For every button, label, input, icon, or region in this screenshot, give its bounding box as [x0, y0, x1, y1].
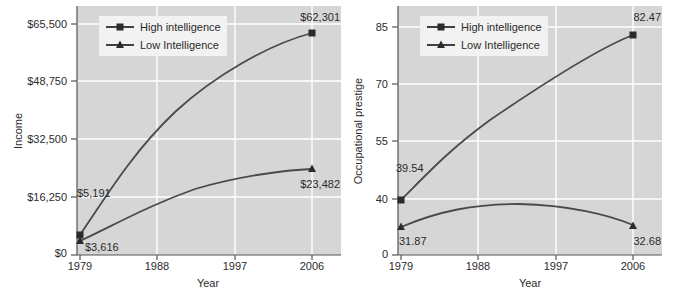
- point-label-high-1979: $5,191: [77, 187, 111, 199]
- chart-panel-prestige: 85 70 55 40 0 1979 1988 1997 2006 Year O…: [344, 0, 688, 290]
- y-tick-label: $65,500: [27, 18, 67, 30]
- x-tick-label: 1979: [389, 260, 413, 272]
- point-label-low-2006: 32.68: [633, 235, 661, 247]
- y-tick-label: 55: [376, 135, 388, 147]
- x-tick-label: 1979: [68, 260, 92, 272]
- square-marker: [117, 24, 124, 31]
- y-tick-label: 85: [376, 21, 388, 33]
- legend-label-high: High intelligence: [461, 21, 542, 33]
- x-axis-ticks: [80, 255, 312, 260]
- square-marker: [438, 24, 445, 31]
- x-axis-ticks: [401, 255, 633, 260]
- point-label-high-2006: 82.47: [633, 11, 661, 23]
- prestige-chart-svg: 85 70 55 40 0 1979 1988 1997 2006 Year O…: [344, 0, 688, 290]
- x-tick-label: 1997: [223, 260, 247, 272]
- legend: High intelligence Low Intelligence: [420, 16, 548, 56]
- square-marker: [630, 32, 637, 39]
- x-axis-title: Year: [197, 277, 220, 289]
- legend-label-low: Low Intelligence: [140, 39, 219, 51]
- chart-panel-income: $65,500 $48,750 $32,500 $16,250 $0 1979 …: [0, 0, 344, 290]
- x-tick-label: 2006: [621, 260, 645, 272]
- x-axis-title: Year: [519, 277, 542, 289]
- point-label-low-1979: $3,616: [85, 241, 119, 253]
- square-marker: [309, 30, 316, 37]
- legend-label-high: High intelligence: [140, 21, 221, 33]
- y-axis-title: Income: [12, 113, 24, 149]
- y-axis-ticks: [71, 24, 77, 255]
- point-label-low-2006: $23,482: [300, 178, 340, 190]
- point-label-high-2006: $62,301: [300, 11, 340, 23]
- figure-root: $65,500 $48,750 $32,500 $16,250 $0 1979 …: [0, 0, 688, 290]
- x-tick-label: 1997: [544, 260, 568, 272]
- point-label-low-1979: 31.87: [399, 235, 427, 247]
- point-label-high-1979: 39.54: [396, 162, 424, 174]
- y-tick-label: 70: [376, 78, 388, 90]
- y-axis-ticks: [392, 27, 398, 255]
- x-tick-label: 2006: [300, 260, 324, 272]
- square-marker: [398, 197, 405, 204]
- legend: High intelligence Low Intelligence: [99, 16, 227, 56]
- y-tick-label: 0: [382, 248, 388, 260]
- y-tick-label: $32,500: [27, 133, 67, 145]
- income-chart-svg: $65,500 $48,750 $32,500 $16,250 $0 1979 …: [0, 0, 344, 290]
- x-tick-label: 1988: [466, 260, 490, 272]
- y-tick-label: 40: [376, 193, 388, 205]
- y-tick-label: $48,750: [27, 75, 67, 87]
- y-axis-title: Occupational prestige: [352, 78, 364, 184]
- legend-label-low: Low Intelligence: [461, 39, 540, 51]
- y-tick-label: $16,250: [27, 191, 67, 203]
- x-tick-label: 1988: [145, 260, 169, 272]
- y-tick-label: $0: [55, 247, 67, 259]
